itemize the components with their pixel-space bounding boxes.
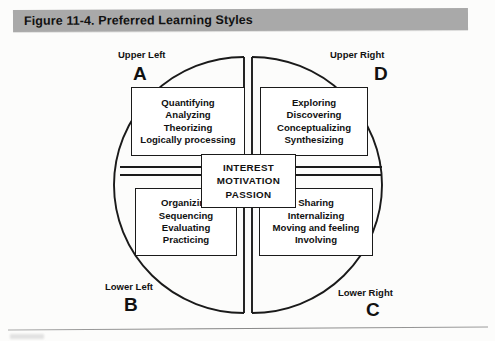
quadrant-d-line-4: Synthesizing [284,134,343,146]
center-line-1: INTEREST [223,161,274,175]
quadrant-box-d: Exploring Discovering Conceptualizing Sy… [260,87,368,156]
quadrant-b-line-4: Practicing [163,234,209,246]
quadrant-d-line-2: Discovering [287,109,342,121]
page-bottom-scan-artifact [10,334,44,339]
label-lower-left: Lower Left [105,282,153,292]
quadrant-d-line-1: Exploring [292,97,336,109]
quadrant-c-line-2: Internalizing [288,210,345,222]
letter-b: B [124,295,138,314]
quadrant-a-line-1: Quantifying [161,97,214,109]
label-upper-left: Upper Left [118,50,166,60]
quadrant-c-line-3: Moving and feeling [273,222,360,234]
letter-d: D [374,64,388,83]
quadrant-diagram: Upper Left A Upper Right D Lower Left B … [0,36,495,318]
center-line-2: MOTIVATION [217,174,281,188]
quadrant-c-line-4: Involving [295,234,337,246]
page-bottom-rule [8,327,488,331]
quadrant-box-a: Quantifying Analyzing Theorizing Logical… [131,87,245,156]
letter-c: C [366,300,380,319]
quadrant-b-line-3: Evaluating [162,222,211,234]
quadrant-a-line-2: Analyzing [165,109,210,121]
figure-title-banner: Figure 11-4. Preferred Learning Styles [13,8,468,32]
figure-page: Figure 11-4. Preferred Learning Styles [0,0,495,341]
quadrant-d-line-3: Conceptualizing [277,122,351,134]
quadrant-b-line-2: Sequencing [159,210,213,222]
quadrant-a-line-3: Theorizing [164,122,213,134]
label-upper-right: Upper Right [330,50,384,60]
letter-a: A [133,64,147,83]
center-line-3: PASSION [226,188,272,202]
figure-title: Figure 11-4. Preferred Learning Styles [13,13,253,28]
quadrant-a-line-4: Logically processing [140,134,235,146]
quadrant-c-line-1: Sharing [298,197,334,209]
label-lower-right: Lower Right [338,288,393,298]
center-box: INTEREST MOTIVATION PASSION [201,154,296,208]
